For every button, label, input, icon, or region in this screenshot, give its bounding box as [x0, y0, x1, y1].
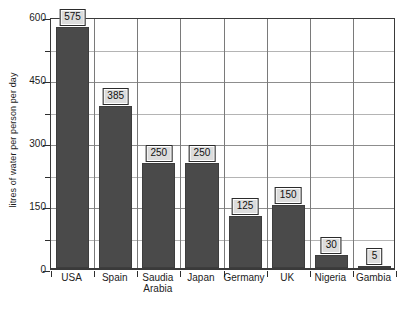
gridline-vertical: [267, 19, 268, 268]
bar-value-label: 250: [145, 145, 172, 162]
y-axis-tick-label: 0: [18, 265, 46, 275]
x-axis-category-label-line: Germany: [224, 272, 265, 283]
x-axis-category-labels: USASpainSaudiaArabiaJapanGermanyUKNigeri…: [50, 272, 395, 309]
bar-value-label: 125: [232, 198, 259, 215]
bar-value-label: 250: [189, 145, 216, 162]
y-axis-tick: [43, 82, 50, 83]
x-axis-category-label-line: Nigeria: [314, 272, 346, 283]
y-axis-tick: [43, 271, 50, 272]
gridline-vertical: [94, 19, 95, 268]
y-axis-tick: [45, 177, 50, 178]
bar-value-label: 30: [321, 237, 342, 254]
y-axis-tick-label: 450: [18, 76, 46, 86]
gridline-horizontal: [51, 82, 394, 83]
x-axis-category-label: Gambia: [356, 272, 391, 283]
y-axis-tick-label: 150: [18, 202, 46, 212]
bar: [272, 205, 305, 268]
x-axis-category-label-line: Arabia: [142, 283, 173, 294]
x-axis-category-label-line: UK: [280, 272, 294, 283]
bar: [142, 163, 175, 268]
bar: [358, 266, 391, 268]
plot-area: 575385250250125150305: [50, 18, 395, 270]
y-axis-tick-label: 600: [18, 13, 46, 23]
gridline-vertical: [310, 19, 311, 268]
y-axis-tick: [43, 145, 50, 146]
x-axis-category-label-line: Gambia: [356, 272, 391, 283]
x-axis-category-label-line: Spain: [102, 272, 128, 283]
x-axis-category-label: USA: [61, 272, 82, 283]
x-axis-category-label-line: Saudia: [142, 272, 173, 283]
y-axis-tick: [43, 19, 50, 20]
y-axis-tick: [45, 240, 50, 241]
x-axis-category-label-line: USA: [61, 272, 82, 283]
bar-value-label: 5: [367, 248, 383, 265]
bar: [229, 216, 262, 269]
y-axis-tick: [45, 114, 50, 115]
bar: [315, 255, 348, 268]
y-axis-tick: [45, 51, 50, 52]
y-axis-tick: [43, 208, 50, 209]
x-axis-category-label: Germany: [224, 272, 265, 283]
x-axis-category-label: UK: [280, 272, 294, 283]
bar-chart: litres of water per person per day 01503…: [0, 0, 412, 309]
bar-value-label: 385: [102, 88, 129, 105]
x-axis-category-label: SaudiaArabia: [142, 272, 173, 294]
gridline-vertical: [180, 19, 181, 268]
x-axis-category-label: Nigeria: [314, 272, 346, 283]
bar-value-label: 575: [59, 9, 86, 26]
gridline-vertical: [224, 19, 225, 268]
bar-value-label: 150: [275, 187, 302, 204]
y-axis-tick-label: 300: [18, 139, 46, 149]
gridline-vertical: [137, 19, 138, 268]
x-axis-category-label: Japan: [187, 272, 214, 283]
gridline-vertical: [353, 19, 354, 268]
x-axis-category-label: Spain: [102, 272, 128, 283]
x-axis-tick: [396, 271, 397, 277]
gridline-horizontal: [51, 51, 394, 52]
bar: [185, 163, 218, 268]
x-axis-category-label-line: Japan: [187, 272, 214, 283]
y-axis-tick-labels: 0150300450600: [16, 0, 46, 309]
bar: [56, 27, 89, 269]
bar: [99, 106, 132, 268]
